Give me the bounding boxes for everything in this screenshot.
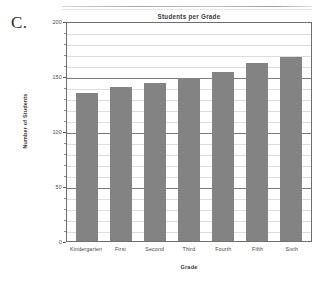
y-axis-tick-label: 50 xyxy=(32,184,62,190)
bar xyxy=(212,72,234,241)
x-axis-tick-label: Kindergarten xyxy=(69,246,103,252)
y-axis-tick xyxy=(63,242,66,243)
x-axis-tick-label: Sixth xyxy=(275,246,309,252)
bar-series xyxy=(67,23,311,241)
bar xyxy=(144,83,166,241)
y-axis-tick-label: 100 xyxy=(32,129,62,135)
x-axis-tick-label: Second xyxy=(138,246,172,252)
y-axis-tick-label: 150 xyxy=(32,74,62,80)
x-axis-tick-labels: KindergartenFirstSecondThirdFourthFifthS… xyxy=(66,246,312,252)
figure-letter: C. xyxy=(11,13,28,33)
x-axis-title: Grade xyxy=(66,264,312,270)
x-axis-tick-label: Fourth xyxy=(206,246,240,252)
x-axis-tick-label: First xyxy=(103,246,137,252)
bar xyxy=(110,87,132,241)
bar xyxy=(178,78,200,241)
y-axis-tick-label: 0 xyxy=(32,239,62,245)
page-top-rule xyxy=(62,6,312,7)
major-gridline xyxy=(67,243,311,244)
y-axis-tick-label: 200 xyxy=(32,19,62,25)
bar xyxy=(76,93,98,242)
bar xyxy=(246,63,268,241)
plot-area xyxy=(66,22,312,242)
chart-title: Students per Grade xyxy=(66,13,312,20)
x-axis-tick-label: Fifth xyxy=(241,246,275,252)
page-top-rule-secondary xyxy=(62,9,312,10)
y-axis-title: Number of Students xyxy=(22,76,28,166)
bar xyxy=(280,57,302,241)
x-axis-tick-label: Third xyxy=(172,246,206,252)
